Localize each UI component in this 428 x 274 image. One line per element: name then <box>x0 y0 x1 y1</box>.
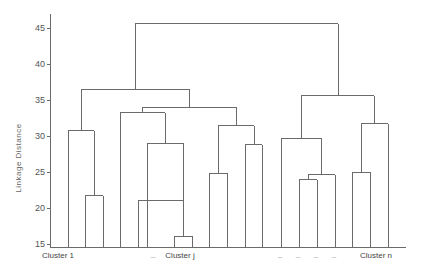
y-tick-label: 15 <box>35 239 45 249</box>
ellipsis-label: – <box>314 252 319 261</box>
dendrogram-chart: 15202530354045 Cluster 1–Cluster j––––Cl… <box>0 0 428 274</box>
y-tick-label: 30 <box>35 131 45 141</box>
leaf-labels: Cluster 1–Cluster j––––Cluster n <box>42 251 392 261</box>
y-axis-label: Linkage Distance <box>14 123 23 192</box>
y-tick-label: 40 <box>35 59 45 69</box>
leaf-label: Cluster j <box>165 251 195 260</box>
y-tick-label: 45 <box>35 23 45 33</box>
ellipsis-label: – <box>332 252 337 261</box>
ellipsis-label: – <box>278 252 283 261</box>
y-tick-label: 20 <box>35 203 45 213</box>
leaf-label: Cluster 1 <box>42 251 75 260</box>
ellipsis-label: – <box>151 252 156 261</box>
leaf-label: Cluster n <box>360 251 392 260</box>
ellipsis-label: – <box>296 252 301 261</box>
y-tick-label: 35 <box>35 95 45 105</box>
axes: 15202530354045 <box>35 14 406 249</box>
y-tick-label: 25 <box>35 167 45 177</box>
dendrogram-links <box>68 24 388 247</box>
